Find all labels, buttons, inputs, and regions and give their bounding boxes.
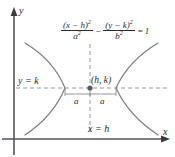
y-axis — [11, 7, 18, 155]
equation-operator: − — [96, 26, 101, 36]
horizontal-line-label: y = k — [18, 76, 39, 86]
second-fraction-denominator: b2 — [113, 31, 125, 41]
equation-right-hand-side: 1 — [145, 26, 150, 36]
first-fraction: (x − h)2 a2 — [61, 20, 93, 42]
vertical-line-label: x = h — [88, 124, 109, 134]
second-numerator-text: (y − k) — [105, 20, 130, 30]
equation-equals-sign: = — [138, 26, 143, 36]
right-branch-curve — [116, 43, 158, 135]
right-distance-label: a — [100, 97, 105, 106]
hyperbola-figure: y x y = k x = h (h, k) a a (x − h)2 a2 −… — [0, 0, 175, 157]
second-fraction-numerator: (y − k)2 — [103, 20, 135, 30]
first-numerator-text: (x − h) — [63, 20, 88, 30]
first-fraction-numerator: (x − h)2 — [61, 20, 93, 30]
x-axis — [2, 136, 170, 143]
left-distance-label: a — [74, 97, 79, 106]
first-denominator-exponent: 2 — [78, 30, 81, 36]
left-branch-curve — [25, 43, 65, 135]
x-axis-label: x — [163, 127, 167, 137]
center-point-marker — [87, 85, 92, 90]
first-numerator-exponent: 2 — [88, 19, 91, 25]
hyperbola-equation: (x − h)2 a2 − (y − k)2 b2 = 1 — [60, 20, 149, 42]
first-fraction-denominator: a2 — [71, 31, 83, 41]
second-denominator-exponent: 2 — [120, 30, 123, 36]
center-point-label: (h, k) — [91, 76, 111, 86]
second-numerator-exponent: 2 — [130, 19, 133, 25]
second-fraction: (y − k)2 b2 — [103, 20, 135, 42]
y-axis-label: y — [19, 6, 23, 16]
